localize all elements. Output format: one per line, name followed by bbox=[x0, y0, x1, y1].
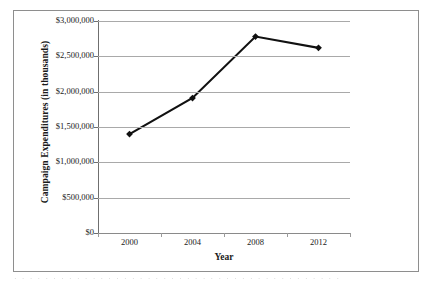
x-axis-tick bbox=[350, 233, 351, 237]
y-axis-tick-label: $500,000 bbox=[32, 193, 94, 202]
gridline bbox=[98, 92, 350, 93]
gridline bbox=[98, 162, 350, 163]
data-point-marker bbox=[315, 44, 322, 51]
scan-bleed-artifact: · · · · · · · · · · · · · · · · · · · · … bbox=[14, 274, 420, 283]
x-axis-tick-label: 2004 bbox=[171, 237, 215, 248]
gridline bbox=[98, 127, 350, 128]
x-axis-tick-label: 2008 bbox=[234, 237, 278, 248]
y-axis-tick bbox=[94, 127, 98, 128]
series-line bbox=[130, 37, 319, 135]
y-axis-tick bbox=[94, 162, 98, 163]
y-axis-tick bbox=[94, 198, 98, 199]
y-axis-tick-label: $2,000,000 bbox=[32, 87, 94, 96]
x-axis-tick-label: 2012 bbox=[297, 237, 341, 248]
x-axis-tick-label: 2000 bbox=[108, 237, 152, 248]
x-axis-tick-labels: 2000200420082012 bbox=[98, 237, 350, 249]
y-axis-tick-label: $1,500,000 bbox=[32, 122, 94, 131]
gridline bbox=[98, 21, 350, 22]
y-axis-tick-label: $1,000,000 bbox=[32, 157, 94, 166]
x-axis-title: Year bbox=[98, 251, 350, 263]
y-axis-tick bbox=[94, 56, 98, 57]
y-axis-tick bbox=[94, 92, 98, 93]
y-axis-tick-labels: $0$500,000$1,000,000$1,500,000$2,000,000… bbox=[30, 0, 94, 284]
y-axis-tick-label: $3,000,000 bbox=[32, 16, 94, 25]
y-axis-tick bbox=[94, 21, 98, 22]
gridline bbox=[98, 56, 350, 57]
y-axis-tick-label: $0 bbox=[32, 228, 94, 237]
gridline bbox=[98, 198, 350, 199]
plot-area bbox=[98, 21, 350, 233]
y-axis-tick-label: $2,500,000 bbox=[32, 51, 94, 60]
